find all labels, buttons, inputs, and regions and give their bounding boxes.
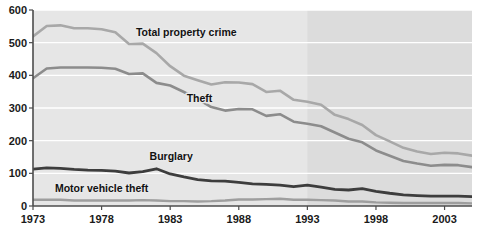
- x-tick-label-1978: 1978: [89, 213, 113, 225]
- x-tick-label-1973: 1973: [21, 213, 45, 225]
- y-tick-label-100: 100: [9, 167, 27, 179]
- property-crime-line-chart: 0100200300400500600 19731978198319881993…: [0, 0, 483, 234]
- x-tick-label-1993: 1993: [295, 213, 319, 225]
- series-label-total-property-crime: Total property crime: [136, 26, 237, 38]
- series-label-motor-vehicle-theft: Motor vehicle theft: [55, 182, 149, 194]
- x-tick-label-1998: 1998: [364, 213, 388, 225]
- y-tick-label-600: 600: [9, 4, 27, 16]
- y-tick-label-0: 0: [21, 200, 27, 212]
- y-tick-label-300: 300: [9, 102, 27, 114]
- y-tick-label-200: 200: [9, 135, 27, 147]
- x-tick-label-1988: 1988: [227, 213, 251, 225]
- chart-canvas: 0100200300400500600 19731978198319881993…: [0, 0, 483, 234]
- y-tick-label-500: 500: [9, 37, 27, 49]
- x-tick-label-1983: 1983: [158, 213, 182, 225]
- series-label-burglary: Burglary: [150, 150, 193, 162]
- y-tick-label-400: 400: [9, 69, 27, 81]
- x-tick-label-2003: 2003: [432, 213, 456, 225]
- series-label-theft: Theft: [187, 92, 213, 104]
